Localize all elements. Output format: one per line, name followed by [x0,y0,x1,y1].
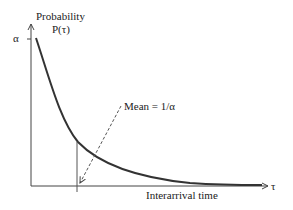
x-axis-symbol: τ [271,180,275,192]
mean-annotation: Mean = 1/α [124,100,175,112]
x-axis-label: Interarrival time [146,189,218,201]
y-axis-label-line1: Probability [36,10,85,22]
y-axis-label-line2: P(τ) [52,23,70,35]
mean-pointer-arrow [80,106,121,183]
y-tick-alpha: α [13,32,19,44]
